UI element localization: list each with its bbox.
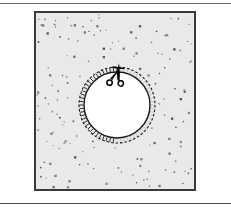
figure-page: A pair of scissors cuts along a dashed c… (0, 0, 231, 212)
speckled-sheet (36, 13, 194, 189)
top-rule (0, 3, 231, 4)
illustration-panel (34, 11, 196, 191)
bottom-rule (0, 203, 231, 204)
circular-cut-out (36, 13, 194, 189)
scissors-icon (36, 13, 194, 189)
figure-alt-text: A pair of scissors cuts along a dashed c… (0, 0, 1, 1)
